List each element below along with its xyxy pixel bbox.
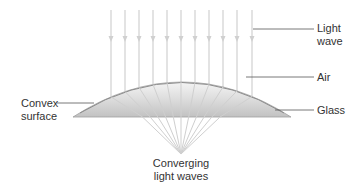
converging-label-line2: light waves [141,170,221,183]
arrow-down-icon [165,36,170,42]
arrow-down-icon [193,36,198,42]
arrow-down-icon [179,36,184,42]
glass-label: Glass [317,104,345,117]
converging-light-waves-label: Converging light waves [141,157,221,182]
arrow-down-icon [235,36,240,42]
arrow-down-icon [250,36,255,42]
arrow-down-icon [221,36,226,42]
converging-label-line1: Converging [141,157,221,170]
arrow-down-icon [137,36,142,42]
convex-surface-label-line2: surface [21,110,58,123]
arrow-down-icon [109,36,114,42]
air-label: Air [317,71,330,84]
light-wave-label-line2: wave [317,35,343,48]
light-wave-label: Light wave [317,22,343,47]
light-wave-label-line1: Light [317,22,343,35]
arrow-down-icon [207,36,212,42]
arrow-down-icon [123,36,128,42]
convex-surface-label: Convex surface [21,97,58,122]
arrow-down-icon [151,36,156,42]
convex-surface-label-line1: Convex [21,97,58,110]
